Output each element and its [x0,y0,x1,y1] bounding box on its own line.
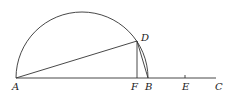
label-d: D [140,32,149,43]
segment-ad [16,41,137,78]
label-a: A [11,81,19,92]
label-f: F [130,81,139,92]
geometry-diagram: A F B E C D [0,0,239,100]
semicircle-ab [16,12,148,78]
label-b: B [144,81,152,92]
label-c: C [215,81,223,92]
segment-db [137,41,148,78]
label-e: E [181,81,190,92]
